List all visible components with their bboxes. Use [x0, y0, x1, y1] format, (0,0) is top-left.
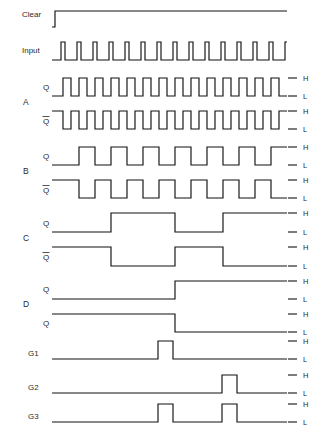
level-label-h: H	[303, 310, 308, 319]
level-label-h: H	[303, 107, 308, 116]
level-label-l: L	[303, 418, 307, 427]
level-label-h: H	[303, 209, 308, 218]
signal-label-b-q: Q	[43, 152, 49, 161]
signal-label-a-q: Q	[43, 83, 49, 92]
level-label-l: L	[303, 125, 307, 134]
level-label-h: H	[303, 74, 308, 83]
level-label-h: H	[303, 277, 308, 286]
level-label-l: L	[303, 194, 307, 203]
level-label-h: H	[303, 337, 308, 346]
group-label-a: A	[23, 97, 29, 107]
level-label-l: L	[303, 328, 307, 337]
signal-label-g2: G2	[28, 383, 39, 392]
level-label-l: L	[303, 355, 307, 364]
level-label-h: H	[303, 371, 308, 380]
level-label-h: H	[303, 400, 308, 409]
level-label-h: H	[303, 143, 308, 152]
signal-label-b-qbar: Q	[43, 186, 49, 195]
signal-label-g3: G3	[28, 412, 39, 421]
level-label-h: H	[303, 243, 308, 252]
signal-label-d-qbar: Q	[43, 319, 49, 328]
signal-label-d-q: Q	[43, 285, 49, 294]
level-label-l: L	[303, 92, 307, 101]
signal-label-clear: Clear	[22, 10, 41, 19]
signal-label-c-qbar: Q	[43, 253, 49, 262]
level-label-l: L	[303, 262, 307, 271]
signal-label-a-qbar: Q	[43, 117, 49, 126]
level-label-h: H	[303, 176, 308, 185]
timing-diagram: Clear Input A Q Q B Q Q C Q Q D Q Q G1 G…	[0, 0, 327, 440]
group-label-c: C	[23, 233, 29, 243]
signal-label-g1: G1	[28, 349, 39, 358]
level-label-l: L	[303, 389, 307, 398]
level-label-l: L	[303, 295, 307, 304]
level-label-l: L	[303, 161, 307, 170]
signal-label-input: Input	[22, 46, 41, 55]
signal-label-c-q: Q	[43, 219, 49, 228]
level-label-l: L	[303, 228, 307, 237]
group-label-b: B	[23, 166, 29, 176]
group-label-d: D	[23, 299, 29, 309]
